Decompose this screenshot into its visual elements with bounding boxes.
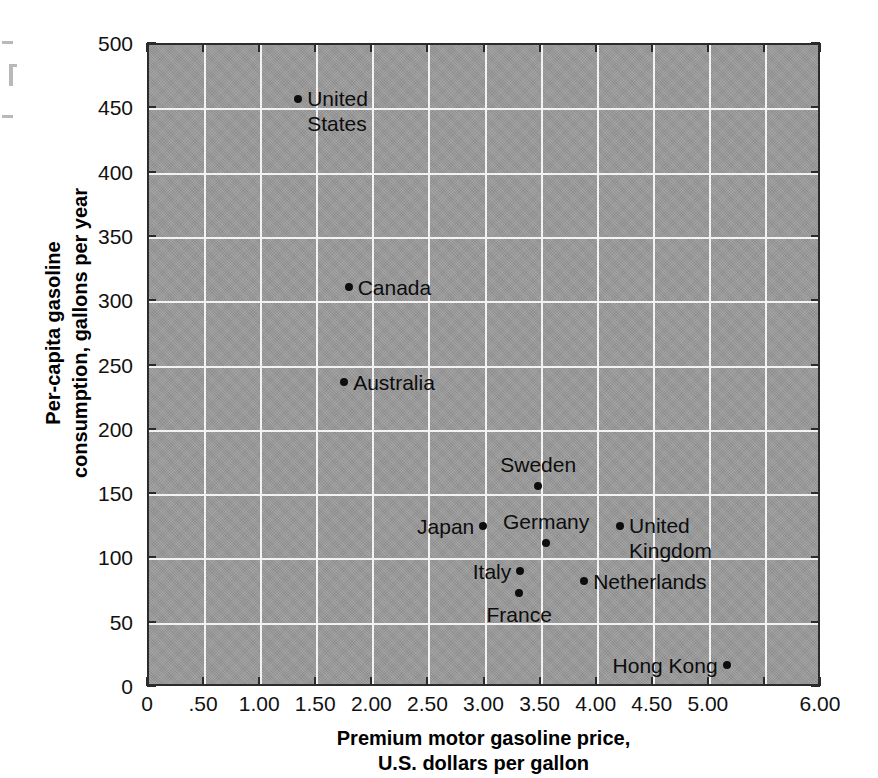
data-point-marker	[723, 661, 731, 669]
x-tick-label: 6.00	[800, 692, 841, 716]
data-point-label-line: Canada	[358, 274, 432, 299]
y-tick-label: 450	[98, 97, 133, 118]
y-tick-left	[147, 621, 156, 623]
gridline-horizontal	[149, 430, 818, 432]
x-tick-top	[483, 43, 485, 52]
x-tick-label: .50	[188, 692, 217, 716]
data-point-label: UnitedKingdom	[629, 513, 712, 563]
x-tick-bottom	[539, 677, 541, 686]
gridline-vertical	[204, 45, 206, 684]
gridline-horizontal	[149, 623, 818, 625]
y-tick-right	[811, 106, 820, 108]
data-point-label: Sweden	[500, 452, 576, 477]
gridline-horizontal	[149, 237, 818, 239]
gridline-vertical	[541, 45, 543, 684]
gridline-vertical	[316, 45, 318, 684]
y-tick-right	[811, 556, 820, 558]
data-point-marker	[580, 577, 588, 585]
y-axis-title-line-2: consumption, gallons per year	[67, 53, 94, 613]
y-tick-label: 100	[98, 547, 133, 568]
data-point-label-line: France	[486, 602, 551, 627]
y-tick-label: 200	[98, 418, 133, 439]
gridline-vertical	[765, 45, 767, 684]
y-tick-label: 150	[98, 483, 133, 504]
y-tick-label: 500	[98, 33, 133, 54]
y-tick-right	[811, 171, 820, 173]
data-point-label: Germany	[503, 509, 589, 534]
data-point-label: Australia	[353, 369, 435, 394]
data-point-label-line: Italy	[473, 558, 512, 583]
y-tick-left	[147, 42, 156, 44]
gridline-vertical	[709, 45, 711, 684]
y-tick-label: 300	[98, 290, 133, 311]
data-point-label-line: Australia	[353, 369, 435, 394]
y-tick-left	[147, 235, 156, 237]
x-axis-title: Premium motor gasoline price, U.S. dolla…	[147, 726, 820, 776]
x-tick-bottom	[763, 677, 765, 686]
x-tick-label: 4.50	[631, 692, 672, 716]
data-point-label: France	[486, 602, 551, 627]
x-tick-top	[426, 43, 428, 52]
x-tick-label: 3.00	[463, 692, 504, 716]
y-tick-right	[811, 428, 820, 430]
y-tick-left	[147, 556, 156, 558]
y-tick-label: 400	[98, 161, 133, 182]
y-tick-label: 50	[110, 611, 133, 632]
x-tick-top	[539, 43, 541, 52]
x-tick-label: 3.50	[519, 692, 560, 716]
x-tick-bottom	[370, 677, 372, 686]
x-tick-top	[819, 43, 821, 52]
x-tick-bottom	[258, 677, 260, 686]
x-tick-label: 1.50	[295, 692, 336, 716]
x-axis-title-line-1: Premium motor gasoline price,	[147, 726, 820, 751]
data-point-label: UnitedStates	[307, 86, 368, 136]
y-tick-left	[147, 492, 156, 494]
data-point-label-line: Germany	[503, 509, 589, 534]
data-point-label-line: Sweden	[500, 452, 576, 477]
data-point-label: Netherlands	[593, 569, 706, 594]
data-point-label-line: Kingdom	[629, 538, 712, 563]
x-tick-top	[707, 43, 709, 52]
gridline-vertical	[485, 45, 487, 684]
x-tick-top	[595, 43, 597, 52]
x-tick-bottom	[483, 677, 485, 686]
y-tick-right	[811, 299, 820, 301]
gridline-vertical	[428, 45, 430, 684]
data-point-label-line: States	[307, 111, 368, 136]
x-tick-bottom	[595, 677, 597, 686]
data-point-label: Canada	[358, 274, 432, 299]
y-tick-label: 350	[98, 225, 133, 246]
data-point-label: Hong Kong	[613, 652, 718, 677]
gridline-horizontal	[149, 366, 818, 368]
x-tick-label: 2.50	[407, 692, 448, 716]
data-point-label-line: United	[307, 86, 368, 111]
x-tick-bottom	[651, 677, 653, 686]
data-point-label-line: Netherlands	[593, 569, 706, 594]
y-tick-right	[811, 364, 820, 366]
gridline-vertical	[260, 45, 262, 684]
data-point-marker	[340, 378, 348, 386]
gridline-horizontal	[149, 173, 818, 175]
x-tick-top	[202, 43, 204, 52]
y-tick-left	[147, 364, 156, 366]
data-point-marker	[616, 522, 624, 530]
y-axis-title-line-1: Per-capita gasoline	[40, 53, 67, 613]
gridline-horizontal	[149, 108, 818, 110]
data-point-label-line: United	[629, 513, 712, 538]
x-tick-bottom	[426, 677, 428, 686]
data-point-label-line: Hong Kong	[613, 652, 718, 677]
y-tick-right	[811, 492, 820, 494]
data-point-label: Japan	[417, 513, 474, 538]
plot-background-texture	[149, 45, 818, 684]
y-tick-left	[147, 685, 156, 687]
data-point-label: Italy	[473, 558, 512, 583]
y-tick-label: 0	[121, 676, 133, 697]
y-tick-right	[811, 685, 820, 687]
gridline-vertical	[372, 45, 374, 684]
x-tick-label: 4.00	[575, 692, 616, 716]
y-tick-left	[147, 299, 156, 301]
y-tick-right	[811, 621, 820, 623]
gridline-horizontal	[149, 301, 818, 303]
y-tick-right	[811, 42, 820, 44]
data-point-marker	[294, 95, 302, 103]
